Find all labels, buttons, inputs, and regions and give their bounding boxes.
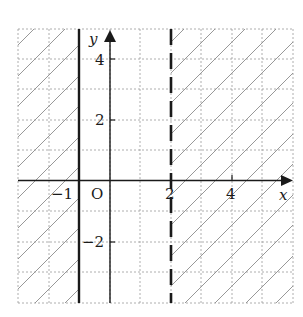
- tick-label-y-neg2: −2: [82, 233, 104, 251]
- y-axis-arrow-icon: [104, 30, 116, 42]
- tick-label-x-4: 4: [226, 185, 236, 203]
- tick-label-y-4: 4: [95, 51, 105, 69]
- inequality-graph: y x O −1 2 4 4 2 −2: [0, 0, 303, 317]
- grid: [18, 29, 293, 303]
- x-axis-label: x: [279, 186, 288, 204]
- y-axis-label: y: [88, 30, 98, 48]
- tick-label-y-2: 2: [95, 111, 105, 129]
- origin-label: O: [91, 185, 103, 203]
- x-axis-arrow-icon: [281, 175, 293, 186]
- tick-label-x-2: 2: [165, 185, 175, 203]
- tick-label-x-neg1: −1: [51, 185, 73, 203]
